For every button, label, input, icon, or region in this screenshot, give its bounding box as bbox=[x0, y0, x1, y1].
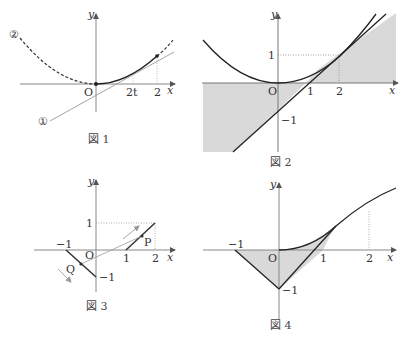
figure-2: y x O 1 2 1 −1 図 2 bbox=[202, 8, 398, 169]
point-q bbox=[79, 262, 82, 265]
caption: 図 3 bbox=[86, 300, 108, 313]
curve-label-1: ① bbox=[38, 115, 48, 128]
tick-x-2: 2 bbox=[336, 85, 343, 98]
label-q: Q bbox=[66, 263, 75, 276]
tick-y-minus-1: −1 bbox=[281, 114, 297, 127]
parabola-solid bbox=[96, 56, 157, 84]
axis-label-y: y bbox=[269, 178, 277, 191]
tick-y-1: 1 bbox=[268, 49, 275, 62]
label-p: P bbox=[144, 236, 152, 249]
caption: 図 4 bbox=[270, 319, 292, 332]
tick-2t: 2t bbox=[126, 86, 138, 99]
axis-label-x: x bbox=[167, 84, 174, 97]
curve-label-2: ② bbox=[9, 28, 19, 41]
axis-label-y: y bbox=[87, 175, 95, 188]
tick-y-minus-1: −1 bbox=[282, 284, 298, 297]
tick-x-2: 2 bbox=[152, 252, 159, 265]
axis-label-x: x bbox=[387, 251, 394, 264]
origin-label: O bbox=[85, 249, 94, 262]
axis-label-y: y bbox=[87, 8, 95, 21]
shade-right bbox=[306, 13, 396, 83]
shade-left bbox=[203, 83, 278, 152]
parabola-dashed-left bbox=[20, 38, 96, 84]
caption: 図 2 bbox=[270, 156, 292, 169]
figure-1: y x O 2t 2 ① ② 図 1 bbox=[9, 8, 175, 146]
tick-x-minus-1: −1 bbox=[56, 238, 72, 251]
caption: 図 1 bbox=[88, 133, 110, 146]
axis-label-x: x bbox=[167, 251, 174, 264]
tick-x-1: 1 bbox=[320, 252, 327, 265]
arrow-p-direction-icon bbox=[123, 226, 139, 239]
axis-label-x: x bbox=[389, 84, 396, 97]
tick-x-2: 2 bbox=[366, 252, 373, 265]
tick-x-1: 1 bbox=[123, 252, 130, 265]
axis-label-y: y bbox=[270, 8, 278, 21]
figure-4: y x O −1 1 2 −1 図 4 bbox=[203, 178, 396, 332]
origin-point bbox=[94, 82, 98, 86]
tick-x-1: 1 bbox=[307, 85, 314, 98]
tick-y-1: 1 bbox=[86, 217, 93, 230]
endpoint bbox=[155, 54, 159, 58]
origin-label: O bbox=[268, 252, 277, 265]
shade-mid bbox=[278, 83, 306, 110]
origin-label: O bbox=[268, 85, 277, 98]
tick-y-minus-1: −1 bbox=[99, 271, 115, 284]
tick-x-minus-1: −1 bbox=[228, 238, 244, 251]
figure-3: y x O −1 1 2 1 −1 P Q 図 3 bbox=[34, 175, 175, 313]
figure-canvas: y x O 2t 2 ① ② 図 1 y x O 1 2 1 −1 図 2 bbox=[0, 0, 404, 344]
curve bbox=[279, 188, 396, 250]
tick-2: 2 bbox=[154, 86, 161, 99]
origin-label: O bbox=[84, 86, 93, 99]
